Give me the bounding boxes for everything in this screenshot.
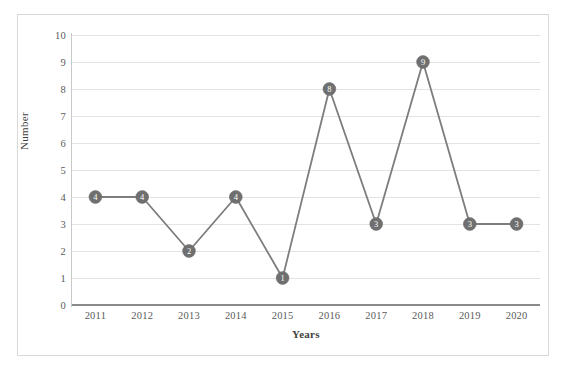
y-axis-tick-label: 3 (26, 219, 66, 230)
data-point-marker: 4 (136, 191, 149, 204)
y-axis-tick-label: 0 (26, 300, 66, 311)
marker-value-label: 4 (140, 192, 145, 202)
data-point-marker: 2 (183, 245, 196, 258)
line-chart: Number 012345678910 4424183933 201120122… (0, 0, 566, 374)
y-axis-tick-label: 7 (26, 111, 66, 122)
marker-value-label: 2 (187, 246, 191, 256)
y-axis-tick-label: 5 (26, 165, 66, 176)
marker-value-label: 3 (374, 219, 378, 229)
marker-value-label: 4 (234, 192, 239, 202)
data-point-marker: 3 (370, 218, 383, 231)
y-axis-tick-label: 6 (26, 138, 66, 149)
y-axis-tick-label: 10 (26, 30, 66, 41)
data-point-marker: 4 (89, 191, 102, 204)
marker-value-label: 8 (327, 84, 331, 94)
data-point-marker: 8 (323, 83, 336, 96)
marker-value-label: 3 (514, 219, 518, 229)
data-point-marker: 4 (229, 191, 242, 204)
data-point-marker: 3 (463, 218, 476, 231)
marker-value-label: 1 (280, 273, 284, 283)
x-axis-tick-label: 2020 (487, 310, 547, 321)
data-point-marker: 1 (276, 272, 289, 285)
series-line (95, 62, 516, 278)
data-point-marker: 3 (510, 218, 523, 231)
marker-value-label: 4 (93, 192, 98, 202)
data-series: 4424183933 (72, 35, 540, 305)
marker-value-label: 3 (468, 219, 472, 229)
y-axis-tick-label: 4 (26, 192, 66, 203)
y-axis-tick-label: 2 (26, 246, 66, 257)
x-axis-title: Years (72, 328, 540, 340)
plot-area: 012345678910 4424183933 (72, 35, 540, 305)
x-axis-tick-labels: 2011201220132014201520162017201820192020 (72, 310, 540, 330)
data-point-marker: 9 (417, 56, 430, 69)
y-axis-tick-label: 1 (26, 273, 66, 284)
marker-value-label: 9 (421, 57, 425, 67)
y-axis-tick-label: 8 (26, 84, 66, 95)
y-axis-tick-label: 9 (26, 57, 66, 68)
